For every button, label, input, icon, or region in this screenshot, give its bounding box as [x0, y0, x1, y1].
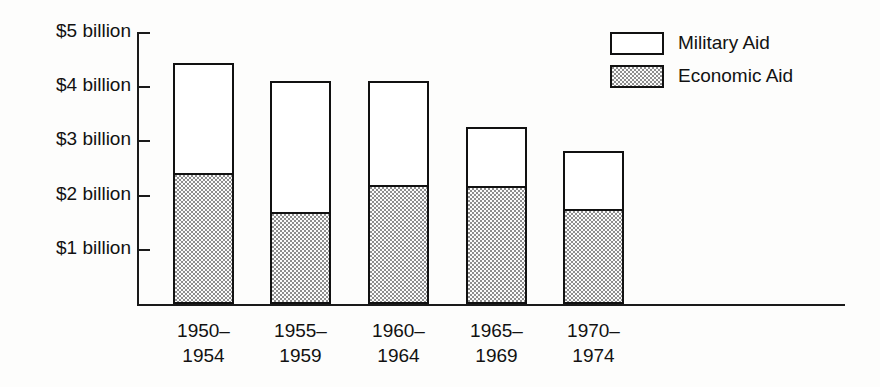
bar-3: [368, 81, 429, 304]
y-axis-tick-label-text: $5 billion: [56, 20, 131, 42]
bar-segment-economic-aid: [466, 186, 527, 304]
bar-segment-economic-aid: [270, 212, 331, 304]
white-swatch-icon: [610, 32, 664, 55]
bar-segment-military-aid: [173, 63, 234, 175]
y-axis-tick: [139, 249, 150, 251]
stacked-bar-chart: $5 billion$4 billion$3 billion$2 billion…: [0, 0, 880, 387]
bar-4: [466, 127, 527, 304]
y-axis-tick: [139, 32, 150, 34]
y-axis-tick-label-text: $1 billion: [56, 237, 131, 259]
bar-segment-military-aid: [270, 81, 331, 214]
bar-5: [563, 151, 624, 304]
y-axis-tick: [139, 195, 150, 197]
x-axis-label-line: 1970–: [525, 318, 662, 343]
bar-1: [173, 63, 234, 304]
bar-segment-economic-aid: [563, 209, 624, 304]
x-axis-label-line: 1974: [525, 343, 662, 368]
y-axis-tick-label-text: $4 billion: [56, 74, 131, 96]
legend-label-economic: Economic Aid: [678, 62, 793, 90]
y-axis-tick-label-text: $3 billion: [56, 128, 131, 150]
legend-label-military: Military Aid: [678, 29, 770, 57]
x-axis-baseline: [137, 304, 845, 306]
bar-segment-military-aid: [466, 127, 527, 188]
stipple-swatch-icon: [610, 65, 664, 88]
y-axis-tick-label-text: $2 billion: [56, 183, 131, 205]
bar-segment-military-aid: [563, 151, 624, 211]
x-axis-label-5: 1970–1974: [525, 318, 662, 368]
bar-segment-economic-aid: [368, 185, 429, 304]
bar-2: [270, 81, 331, 304]
y-axis-tick: [139, 86, 150, 88]
bar-segment-military-aid: [368, 81, 429, 187]
bar-segment-economic-aid: [173, 173, 234, 304]
y-axis-line: [137, 32, 139, 306]
y-axis-tick: [139, 140, 150, 142]
